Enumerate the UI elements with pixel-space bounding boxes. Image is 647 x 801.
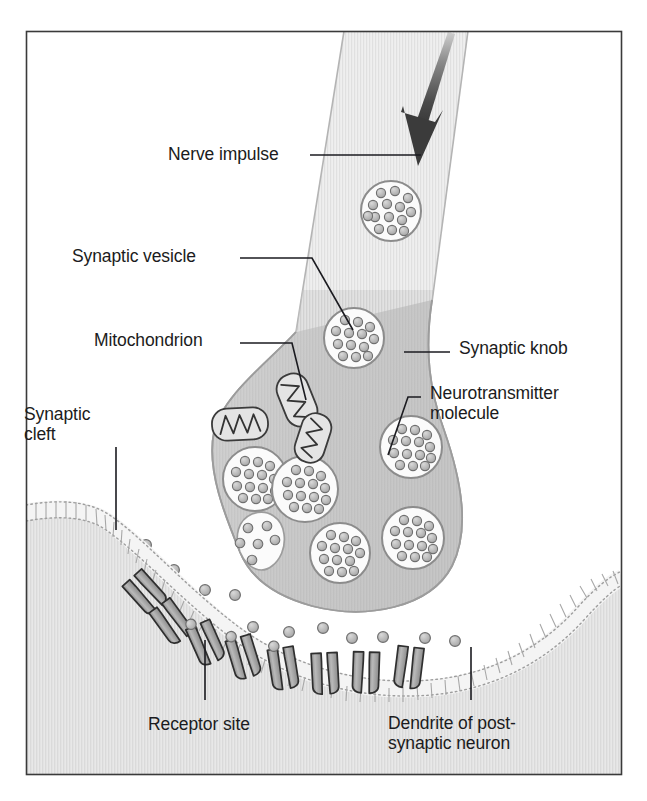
label-synaptic-knob: Synaptic knob [459, 338, 568, 358]
synaptic-vesicle [324, 308, 384, 368]
synaptic-vesicle [310, 523, 370, 583]
synaptic-vesicle [382, 507, 444, 569]
label-receptor-site: Receptor site [148, 714, 250, 734]
label-nerve-impulse: Nerve impulse [168, 144, 279, 164]
figure-canvas: Nerve impulse Synaptic vesicle Mitochond… [0, 0, 647, 801]
synaptic-vesicle [272, 456, 338, 522]
label-neurotransmitter-molecule: Neurotransmitter molecule [430, 383, 559, 424]
label-synaptic-vesicle: Synaptic vesicle [72, 246, 196, 266]
label-dendrite-of-postsynaptic-neuron: Dendrite of post- synaptic neuron [388, 713, 516, 754]
synaptic-vesicle [380, 416, 442, 478]
label-synaptic-cleft: Synaptic cleft [24, 404, 90, 445]
label-mitochondrion: Mitochondrion [94, 330, 203, 350]
mitochondrion [211, 407, 269, 442]
synaptic-vesicle [361, 181, 421, 241]
